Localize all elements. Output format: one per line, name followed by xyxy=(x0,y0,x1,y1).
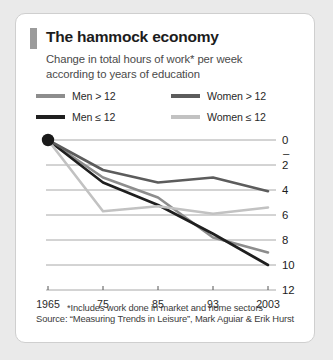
series-line-women-12 xyxy=(48,140,268,214)
legend-label: Women ≤ 12 xyxy=(207,111,266,123)
y-tick-label: 0 xyxy=(282,134,288,146)
y-tick-label: 6 xyxy=(282,209,288,221)
y-tick-label: 10 xyxy=(282,259,295,271)
origin-dot-circle xyxy=(42,134,54,146)
origin-dot xyxy=(42,134,54,146)
legend-item-women-le-12[interactable]: Women ≤ 12 xyxy=(171,111,302,123)
legend-item-women-gt-12[interactable]: Women > 12 xyxy=(171,90,302,102)
legend-swatch-icon xyxy=(36,115,65,118)
legend-label: Men ≤ 12 xyxy=(72,111,115,123)
footnote-note: *Includes work done in market and home s… xyxy=(67,302,263,313)
page-background: The hammock economy Change in total hour… xyxy=(0,0,333,360)
legend-swatch-icon xyxy=(171,115,200,118)
subtitle-line-1: Change in total hours of work* per week xyxy=(46,52,302,67)
legend-swatch-icon xyxy=(171,94,200,97)
title-row: The hammock economy xyxy=(30,28,304,49)
chart-subtitle: Change in total hours of work* per week … xyxy=(46,52,302,81)
series-lines xyxy=(48,140,268,265)
subtitle-line-2: according to years of education xyxy=(46,67,302,82)
legend-label: Women > 12 xyxy=(207,90,266,102)
footnote-block: *Includes work done in market and home s… xyxy=(24,302,306,325)
legend-label: Men > 12 xyxy=(72,90,116,102)
chart-legend: Men > 12 Women > 12 Men ≤ 12 Women ≤ 12 xyxy=(36,90,302,123)
y-axis-labels: 024681012– xyxy=(282,134,295,296)
y-tick-label: 8 xyxy=(282,234,288,246)
y-axis-minus-hint: – xyxy=(283,147,290,159)
legend-item-men-le-12[interactable]: Men ≤ 12 xyxy=(36,111,167,123)
y-tick-label: 12 xyxy=(282,284,295,296)
accent-bar xyxy=(30,28,37,49)
y-tick-label: 4 xyxy=(282,184,288,196)
page-title: The hammock economy xyxy=(46,28,219,45)
legend-item-men-gt-12[interactable]: Men > 12 xyxy=(36,90,167,102)
chart-card: The hammock economy Change in total hour… xyxy=(15,13,315,343)
footnote-source: Source: “Measuring Trends in Leisure”, M… xyxy=(24,313,306,325)
axis-ticks xyxy=(48,286,268,290)
y-tick-label: 2 xyxy=(282,159,288,171)
legend-swatch-icon xyxy=(36,94,65,97)
